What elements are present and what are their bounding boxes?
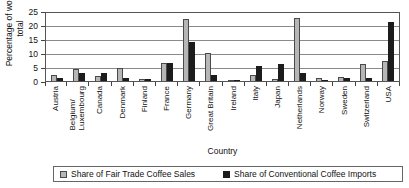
x-axis-label-cell: Italy bbox=[245, 86, 267, 144]
x-axis-tick-label: Denmark bbox=[118, 86, 127, 118]
x-axis-label-cell: Belgium/Luxembourg bbox=[67, 86, 89, 144]
bar bbox=[278, 64, 284, 81]
legend-item-conventional: Share of Conventional Coffee Imports bbox=[223, 169, 376, 179]
y-axis-tick-label: 25 bbox=[10, 8, 38, 17]
y-axis-tick-label: 15 bbox=[10, 36, 38, 45]
x-axis-label-cell: Ireland bbox=[223, 86, 245, 144]
x-axis-label-cell: Norway bbox=[311, 86, 333, 144]
bar-group bbox=[311, 13, 333, 81]
x-axis-label-cell: Switzerland bbox=[356, 86, 378, 144]
bar bbox=[189, 42, 195, 81]
x-axis-tick-label: Italy bbox=[251, 86, 260, 101]
x-axis-label-cell: Netherlands bbox=[289, 86, 311, 144]
bar bbox=[145, 79, 151, 81]
bar-group bbox=[90, 13, 112, 81]
x-axis-title: Country bbox=[45, 146, 400, 156]
x-axis-tick-label: Belgium/Luxembourg bbox=[70, 86, 87, 130]
bar bbox=[79, 73, 85, 81]
x-axis-tick-label: Switzerland bbox=[362, 86, 371, 127]
bar-group bbox=[267, 13, 289, 81]
bar bbox=[57, 78, 63, 81]
x-axis-label-cell: Germany bbox=[178, 86, 200, 144]
y-axis-tick-label: 10 bbox=[10, 50, 38, 59]
bar bbox=[388, 22, 394, 81]
x-axis-tick-label: USA bbox=[385, 86, 394, 102]
bar bbox=[123, 78, 129, 81]
x-axis-label-cell: Finland bbox=[134, 86, 156, 144]
bar bbox=[167, 63, 173, 81]
x-axis-tick-label: Sweden bbox=[340, 86, 349, 115]
x-axis-tick-label: Finland bbox=[141, 86, 150, 112]
x-axis-label-cell: Sweden bbox=[333, 86, 355, 144]
bar-group bbox=[68, 13, 90, 81]
x-axis-tick-label: Canada bbox=[96, 86, 105, 114]
legend-swatch-icon bbox=[60, 171, 67, 178]
legend-item-fair-trade: Share of Fair Trade Coffee Sales bbox=[60, 169, 195, 179]
bar bbox=[366, 78, 372, 81]
x-axis-label-cell: Japan bbox=[267, 86, 289, 144]
bar-group bbox=[333, 13, 355, 81]
bar bbox=[344, 78, 350, 81]
bar bbox=[256, 66, 262, 81]
x-axis-label-cell: Canada bbox=[89, 86, 111, 144]
bar-group bbox=[178, 13, 200, 81]
x-axis-tick-label: Great Britain bbox=[207, 86, 216, 131]
x-axis-label-cell: Denmark bbox=[112, 86, 134, 144]
bar-groups bbox=[46, 13, 399, 81]
chart-legend: Share of Fair Trade Coffee Sales Share o… bbox=[53, 166, 403, 182]
legend-label: Share of Conventional Coffee Imports bbox=[234, 169, 376, 179]
bar-group bbox=[377, 13, 399, 81]
x-axis-tick-label: Germany bbox=[185, 86, 194, 119]
y-axis-tick-label: 0 bbox=[10, 78, 38, 87]
x-axis-label-cell: France bbox=[156, 86, 178, 144]
y-axis-tick-label: 20 bbox=[10, 22, 38, 31]
x-axis-tick-labels: AustriaBelgium/LuxembourgCanadaDenmarkFi… bbox=[45, 86, 400, 144]
x-axis-tick-label: Ireland bbox=[229, 86, 238, 110]
bar-group bbox=[355, 13, 377, 81]
bar-chart: Percentage of world total 0510152025 Aus… bbox=[0, 0, 409, 188]
x-axis-tick-label: Japan bbox=[274, 86, 283, 108]
bar-group bbox=[46, 13, 68, 81]
bar bbox=[234, 80, 240, 81]
bar bbox=[294, 18, 300, 81]
bar-group bbox=[156, 13, 178, 81]
y-axis-tick-label: 5 bbox=[10, 64, 38, 73]
legend-label: Share of Fair Trade Coffee Sales bbox=[71, 169, 195, 179]
bar-group bbox=[289, 13, 311, 81]
bar-group bbox=[245, 13, 267, 81]
bar bbox=[300, 73, 306, 81]
x-axis-tick-label: Austria bbox=[52, 86, 61, 111]
bar-group bbox=[134, 13, 156, 81]
x-axis-label-cell: Great Britain bbox=[200, 86, 222, 144]
bar bbox=[211, 75, 217, 81]
bar bbox=[101, 73, 107, 81]
x-axis-tick-label: Netherlands bbox=[296, 86, 305, 129]
bar bbox=[322, 80, 328, 81]
bar-group bbox=[112, 13, 134, 81]
plot-area bbox=[45, 12, 400, 82]
bar-group bbox=[200, 13, 222, 81]
x-axis-label-cell: USA bbox=[378, 86, 400, 144]
bar-group bbox=[223, 13, 245, 81]
x-axis-tick-label: France bbox=[163, 86, 172, 111]
x-axis-tick-label: Norway bbox=[318, 86, 327, 113]
x-axis-label-cell: Austria bbox=[45, 86, 67, 144]
legend-swatch-icon bbox=[223, 171, 230, 178]
